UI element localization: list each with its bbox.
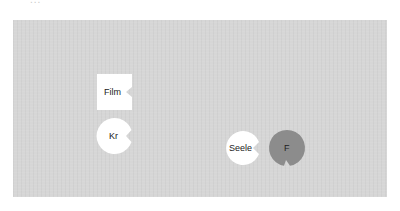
node-seele-label: Seele [229,143,252,153]
node-seele[interactable]: Seele [226,131,259,165]
node-film-label: Film [104,87,121,97]
node-film[interactable]: Film [97,74,132,110]
node-f[interactable]: F [269,130,305,166]
diagram-svg: Film Kr Seele F [0,0,400,211]
node-kr-label: Kr [109,131,118,141]
node-kr[interactable]: Kr [97,118,132,154]
node-f-label: F [284,143,290,153]
